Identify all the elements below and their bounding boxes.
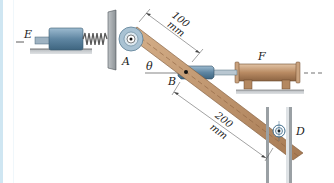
label-b: B (167, 75, 176, 88)
pin-b (184, 70, 188, 74)
spring-icon (83, 33, 107, 45)
label-e: E (23, 28, 32, 41)
label-a: A (121, 55, 130, 68)
mechanism-figure: E A θ B F D 100 mm 200 mm (0, 0, 334, 183)
ground-f (236, 90, 304, 94)
label-f: F (257, 50, 266, 63)
diagram-canvas: E A θ B F D 100 mm 200 mm (0, 0, 334, 183)
label-d: D (295, 125, 305, 138)
label-theta: θ (146, 60, 153, 73)
pin-a (119, 27, 143, 51)
plate (108, 10, 116, 70)
